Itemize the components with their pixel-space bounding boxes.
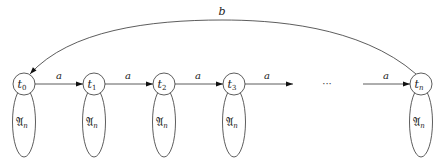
ellipsis: ··· [322, 78, 332, 89]
edge-t3-ellipsis: a [245, 70, 293, 84]
svg-text:𝔄n: 𝔄n [226, 116, 238, 130]
edge-label-a: a [383, 70, 389, 81]
svg-text:𝔄n: 𝔄n [156, 116, 168, 130]
edge-ellipsis-tn: a [363, 70, 410, 84]
edge-label-a: a [125, 70, 131, 81]
edge-label-b: b [218, 5, 225, 18]
automaton-diagram: b a a a a ··· a t0 𝔄n t1 𝔄n t2 𝔄n [0, 0, 445, 165]
state-t1: t1 𝔄n [83, 73, 106, 157]
state-t3: t3 𝔄n [223, 73, 246, 157]
svg-text:𝔄n: 𝔄n [86, 116, 98, 130]
edge-label-a: a [56, 70, 62, 81]
state-tn: tn 𝔄n [410, 73, 433, 157]
state-t2: t2 𝔄n [153, 73, 176, 157]
edge-label-a: a [195, 70, 201, 81]
state-t0: t0 𝔄n [13, 73, 36, 157]
edge-label-a: a [264, 70, 270, 81]
svg-text:𝔄n: 𝔄n [413, 116, 425, 130]
edge-t0-t1: a [35, 70, 83, 84]
edge-t2-t3: a [175, 70, 223, 84]
edge-t1-t2: a [105, 70, 153, 84]
edge-tn-t0: b [30, 5, 416, 74]
svg-text:𝔄n: 𝔄n [16, 116, 28, 130]
